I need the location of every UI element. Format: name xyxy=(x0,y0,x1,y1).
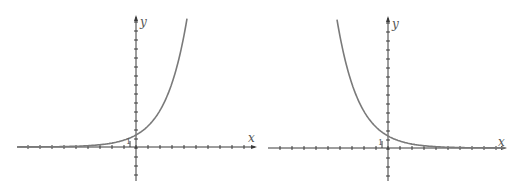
y-axis-arrow-icon xyxy=(134,15,138,21)
x-axis-label: x xyxy=(248,131,255,145)
y-axis-arrow-icon xyxy=(386,16,390,22)
growth-graph: 1 y x xyxy=(17,15,257,181)
y-axis-label: y xyxy=(391,17,399,31)
y-intercept-label: 1 xyxy=(126,137,131,146)
chart-canvas: 1 y x 1 y x xyxy=(0,0,520,190)
growth-curve xyxy=(17,19,187,147)
x-axis-arrow-icon xyxy=(251,145,257,149)
decay-graph: 1 y x xyxy=(268,16,507,181)
y-intercept-label: 1 xyxy=(378,138,383,147)
x-axis-label: x xyxy=(498,135,505,149)
y-axis-label: y xyxy=(139,15,147,29)
decay-curve xyxy=(337,20,505,148)
